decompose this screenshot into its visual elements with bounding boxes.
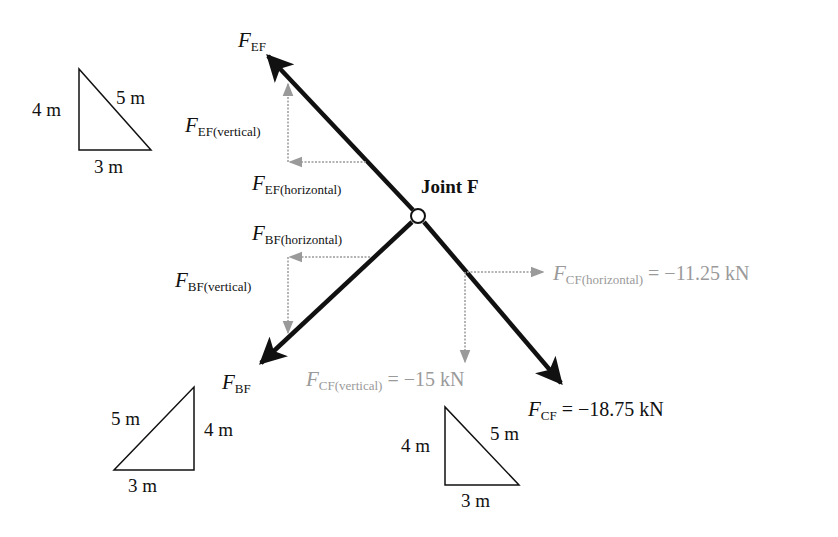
triangle-ef-hypotenuse-label: 5 m <box>116 87 145 108</box>
bf-components <box>288 257 370 333</box>
force-label-ef-vertical: FEF(vertical) <box>184 113 261 139</box>
force-label-cf-vertical: FCF(vertical) = −15 kN <box>305 367 464 393</box>
slope-triangle-cf: 4 m 5 m 3 m <box>401 407 519 511</box>
force-label-bf: FBF <box>221 370 251 396</box>
triangle-bf-vertical-label: 4 m <box>204 419 233 440</box>
slope-triangle-bf: 5 m 4 m 3 m <box>111 387 233 496</box>
triangle-cf-base-label: 3 m <box>461 490 490 511</box>
triangle-bf-base-label: 3 m <box>128 475 157 496</box>
force-label-ef-horizontal: FEF(horizontal) <box>251 171 341 197</box>
joint-label: Joint F <box>421 176 479 197</box>
force-label-ef: FEF <box>237 28 266 54</box>
triangle-cf-hypotenuse-label: 5 m <box>490 423 519 444</box>
force-label-cf-horizontal: FCF(horizontal) = −11.25 kN <box>552 261 749 287</box>
triangle-cf-vertical-label: 4 m <box>401 435 430 456</box>
triangle-ef-base-label: 3 m <box>94 156 123 177</box>
slope-triangle-ef: 4 m 5 m 3 m <box>32 69 151 177</box>
triangle-bf-hypotenuse-label: 5 m <box>111 408 140 429</box>
member-cf-arrow <box>424 222 561 383</box>
force-label-bf-horizontal: FBF(horizontal) <box>251 221 342 247</box>
joint-f-node <box>411 209 425 223</box>
joint-f-free-body-diagram: Joint F FEF FEF(vertical) FEF(horizontal… <box>0 0 838 537</box>
force-label-bf-vertical: FBF(vertical) <box>174 268 251 294</box>
force-label-cf: FCF = −18.75 kN <box>527 397 664 423</box>
triangle-ef-vertical-label: 4 m <box>32 99 61 120</box>
